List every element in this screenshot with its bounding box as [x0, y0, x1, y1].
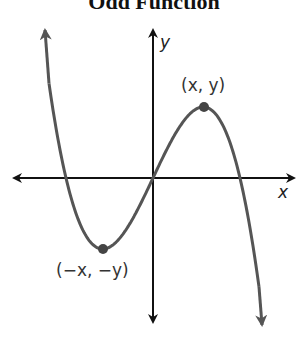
curve-arrow-left-icon	[45, 30, 49, 83]
curve-arrow-right-icon	[259, 287, 262, 325]
point-local-max	[199, 102, 209, 112]
y-axis-label: y	[159, 32, 171, 52]
x-axis-label: x	[277, 182, 289, 202]
label-point-min: (−x, −y)	[56, 260, 129, 280]
label-point-max: (x, y)	[181, 75, 225, 95]
point-local-min	[98, 244, 108, 254]
odd-function-graph: (x, y) (−x, −y) x y	[0, 0, 308, 341]
